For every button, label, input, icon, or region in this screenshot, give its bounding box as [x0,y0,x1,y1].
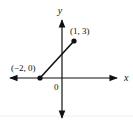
y-axis-label: y [57,5,63,16]
point-b-label: (1, 3) [70,26,90,36]
point-neg2-0 [37,75,42,80]
line-segment [40,41,74,78]
coordinate-graph: y x 0 (−2, 0) (1, 3) [0,0,133,129]
origin-label: 0 [54,82,59,92]
point-a-label: (−2, 0) [11,63,36,73]
point-1-3 [71,38,76,43]
x-axis-label: x [123,72,129,83]
